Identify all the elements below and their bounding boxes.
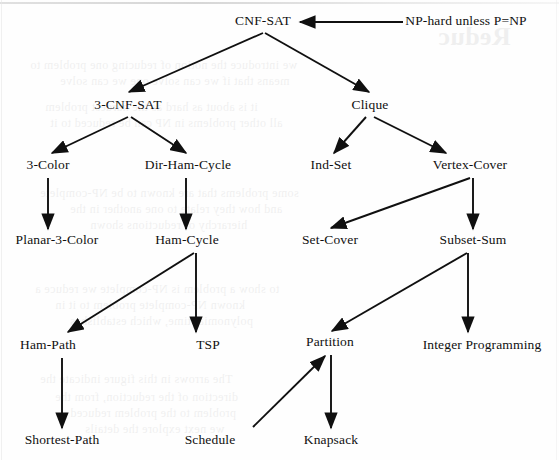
reduction-arrow-vertex-cover-to-set-cover xyxy=(331,178,470,228)
problem-node-planar-3-color: Planar-3-Color xyxy=(16,232,99,248)
problem-node-tsp: TSP xyxy=(196,337,220,353)
reduction-arrow-subset-sum-to-partition xyxy=(332,253,467,331)
problem-node-schedule: Schedule xyxy=(185,432,236,448)
reduction-arrow-3-cnf-sat-to-3-color xyxy=(52,117,128,153)
edge-group xyxy=(48,22,473,428)
problem-node-dir-ham-cycle: Dir-Ham-Cycle xyxy=(145,157,231,173)
reduction-arrow-schedule-to-partition xyxy=(253,356,325,427)
reduction-arrow-clique-to-vertex-cover xyxy=(374,117,446,153)
problem-node-shortest-path: Shortest-Path xyxy=(25,432,100,448)
np-hard-annotation: NP-hard unless P=NP xyxy=(405,13,526,29)
problem-node-knapsack: Knapsack xyxy=(304,432,358,448)
problem-node-3-cnf-sat: 3-CNF-SAT xyxy=(94,97,161,113)
reduction-arrow-ham-cycle-to-ham-path xyxy=(68,253,194,332)
figure-page: Reducwe introduce the notion of reducing… xyxy=(0,0,559,460)
reduction-arrows xyxy=(0,0,559,460)
problem-node-ham-cycle: Ham-Cycle xyxy=(155,232,219,248)
reduction-arrow-3-cnf-sat-to-dir-ham-cycle xyxy=(131,117,186,153)
reduction-arrow-cnf-sat-to-clique xyxy=(265,33,369,92)
problem-node-set-cover: Set-Cover xyxy=(302,232,358,248)
problem-node-subset-sum: Subset-Sum xyxy=(440,232,507,248)
problem-node-clique: Clique xyxy=(352,97,389,113)
problem-node-cnf-sat: CNF-SAT xyxy=(235,13,291,29)
problem-node-ind-set: Ind-Set xyxy=(311,157,352,173)
problem-node-3-color: 3-Color xyxy=(26,157,69,173)
problem-node-ham-path: Ham-Path xyxy=(20,337,76,353)
reduction-arrow-clique-to-ind-set xyxy=(334,117,366,153)
problem-node-partition: Partition xyxy=(306,334,354,350)
problem-node-integer-programming: Integer Programming xyxy=(423,337,542,353)
reduction-arrow-cnf-sat-to-3-cnf-sat xyxy=(129,33,263,92)
problem-node-vertex-cover: Vertex-Cover xyxy=(433,157,508,173)
